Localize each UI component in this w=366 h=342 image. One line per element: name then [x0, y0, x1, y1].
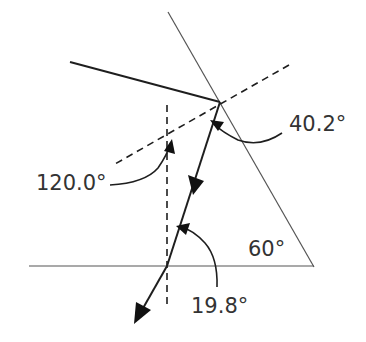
incident-ray [142, 266, 167, 310]
angle-arc-120-arrowhead-icon [164, 139, 175, 154]
label-angle-19: 19.8° [191, 294, 248, 318]
normal-line-top [115, 65, 289, 164]
angle-arc-40 [214, 124, 282, 143]
label-angle-120: 120.0° [36, 171, 107, 195]
incident-ray-arrow-icon [134, 302, 151, 324]
angle-arc-120 [110, 145, 170, 185]
prism-ray-diagram: 40.2° 120.0° 60° 19.8° [0, 0, 366, 342]
label-angle-60: 60° [248, 237, 285, 261]
angle-arc-19 [183, 228, 217, 287]
prism-slanted-edge [168, 12, 314, 267]
emergent-ray [70, 62, 220, 102]
label-angle-40: 40.2° [289, 112, 346, 136]
